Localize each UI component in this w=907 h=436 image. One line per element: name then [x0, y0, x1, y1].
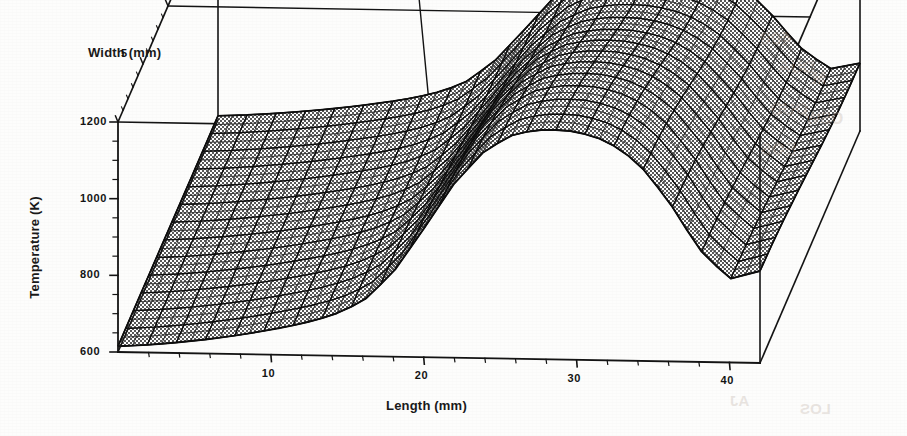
y-tick-label-5: 5 [121, 47, 128, 59]
z-tick-label-600: 600 [80, 345, 100, 357]
x-tick-label-10: 10 [262, 367, 275, 379]
x-tick-label-30: 30 [568, 372, 581, 384]
surface-mesh [118, 0, 860, 346]
temperature-axis-title: Temperature (K) [27, 196, 42, 298]
x-tick-label-20: 20 [415, 369, 428, 381]
surface-plot-canvas [0, 0, 907, 436]
y-tick-label-10: 10 [138, 0, 151, 2]
x-tick-label-40: 40 [720, 374, 733, 386]
surface-plot-figure: Width (mm) Length (mm) Temperature (K) 1… [0, 0, 907, 436]
z-tick-label-1200: 1200 [80, 115, 107, 127]
length-axis-title: Length (mm) [386, 398, 467, 413]
z-tick-label-1000: 1000 [80, 192, 107, 204]
z-tick-label-800: 800 [80, 268, 100, 280]
